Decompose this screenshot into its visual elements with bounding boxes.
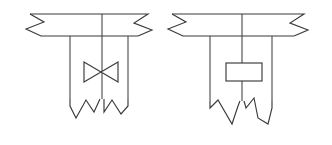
left-bottom-break-right-diagram <box>210 100 240 124</box>
right-diagram <box>168 14 308 124</box>
band-bottom-edge-left-diagram <box>26 14 138 36</box>
band-bottom-edge-right-diagram <box>168 14 294 36</box>
butterfly-valve-symbol <box>84 62 118 82</box>
figure-root <box>0 0 332 145</box>
schematic-canvas <box>0 0 332 145</box>
band-top-edge-left-diagram <box>30 14 152 36</box>
right-bottom-break-left-diagram <box>104 99 128 114</box>
band-top-edge-right-diagram <box>172 14 308 36</box>
left-bottom-break-left-diagram <box>70 99 100 118</box>
butterfly-valve-left-wing <box>84 62 101 82</box>
right-bottom-break-right-diagram <box>244 98 272 124</box>
butterfly-valve-right-wing <box>101 62 118 82</box>
left-diagram <box>26 14 152 118</box>
orifice-plate-symbol <box>226 63 262 81</box>
